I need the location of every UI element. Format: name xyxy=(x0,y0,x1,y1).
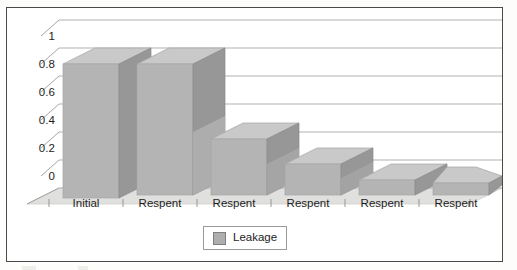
scanned-page: 1 0.8 0.6 0.4 0.2 0 Initial Respent Resp… xyxy=(0,0,517,270)
legend-swatch-leakage xyxy=(213,232,226,245)
x-axis: Initial Respent Respent Respent Respent … xyxy=(7,198,502,220)
scan-artifact xyxy=(78,266,88,270)
x-tick-label: Respent xyxy=(130,198,190,210)
chart-frame: 1 0.8 0.6 0.4 0.2 0 Initial Respent Resp… xyxy=(6,7,503,262)
legend-label-leakage: Leakage xyxy=(233,232,277,244)
chart-legend: Leakage xyxy=(203,226,287,250)
y-tick-label: 0.8 xyxy=(39,59,55,71)
y-tick-label: 0.2 xyxy=(39,143,55,155)
x-tick-label: Respent xyxy=(278,198,338,210)
y-tick-label: 0.6 xyxy=(39,87,55,99)
y-axis: 1 0.8 0.6 0.4 0.2 0 xyxy=(11,8,55,260)
y-tick-label: 1 xyxy=(49,31,56,43)
bar-chart-graphic xyxy=(7,8,502,260)
y-tick-label: 0.4 xyxy=(39,115,55,127)
y-tick-label: 0 xyxy=(49,171,56,183)
x-tick-label: Respent xyxy=(352,198,412,210)
scan-artifact xyxy=(22,266,36,270)
x-tick-label: Respent xyxy=(204,198,264,210)
x-tick-label: Initial xyxy=(56,198,116,210)
plot-area: 1 0.8 0.6 0.4 0.2 0 Initial Respent Resp… xyxy=(7,8,502,260)
x-tick-label: Respent xyxy=(426,198,486,210)
